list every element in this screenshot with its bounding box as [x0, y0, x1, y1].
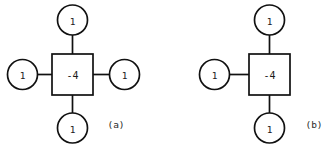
figure-caption-b: (b)	[305, 119, 322, 130]
neighbor-node-bottom-value: 1	[70, 124, 76, 135]
neighbor-node-left-value: 1	[20, 70, 26, 81]
stencil-diagram-group: -4 1 1 1 1 (a) -4 1 1	[0, 0, 331, 148]
neighbor-node-left-value: 1	[212, 70, 218, 81]
neighbor-node-bottom-value: 1	[267, 124, 273, 135]
neighbor-node-right-value: 1	[122, 70, 128, 81]
neighbor-node-top-value: 1	[267, 16, 273, 27]
diagram-b: -4 1 1 1 (b)	[200, 5, 323, 143]
figure-caption-a: (a)	[107, 119, 124, 130]
center-node-value: -4	[263, 70, 275, 81]
neighbor-node-top-value: 1	[70, 16, 76, 27]
diagram-canvas: -4 1 1 1 1 (a) -4 1 1	[0, 0, 331, 148]
diagram-a: -4 1 1 1 1 (a)	[8, 5, 140, 143]
center-node-value: -4	[66, 70, 78, 81]
